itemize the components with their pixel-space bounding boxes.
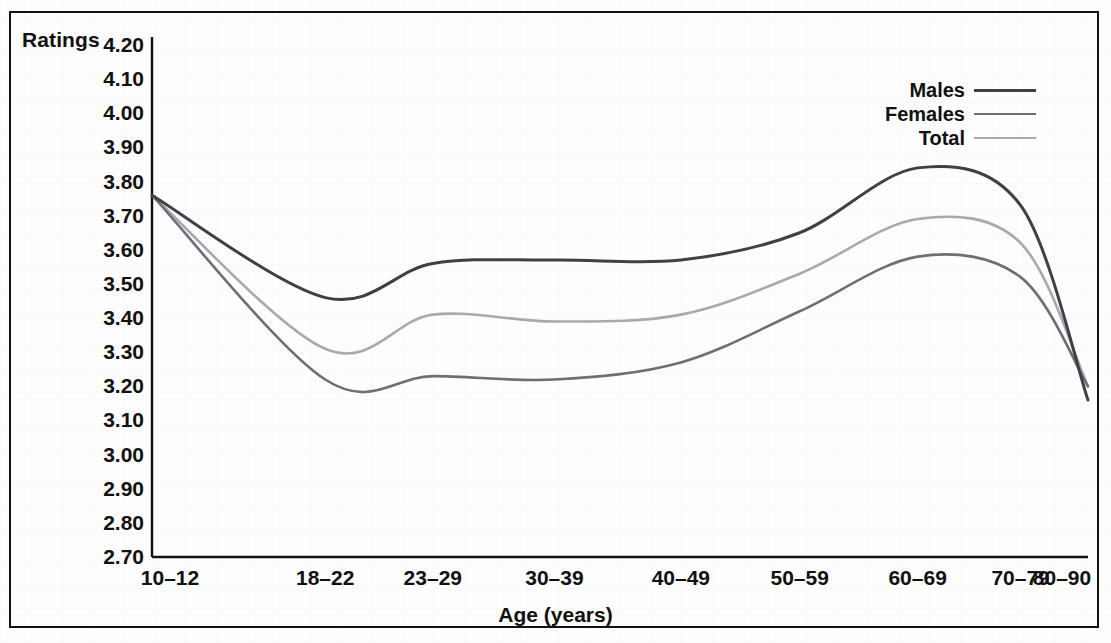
legend-item-total: Total	[826, 126, 1036, 150]
x-axis-tick-label: 18–22	[296, 566, 354, 590]
y-axis-tick-label: 3.20	[58, 375, 144, 396]
y-axis-tick-label: 3.70	[58, 205, 144, 226]
x-axis-tick-label: 23–29	[404, 566, 462, 590]
y-axis-tick-label: 2.70	[58, 546, 144, 567]
legend-line-swatch	[974, 113, 1036, 115]
y-axis-tick-label: 3.30	[58, 341, 144, 362]
y-axis-tick-label: 4.10	[58, 68, 144, 89]
legend-item-females: Females	[826, 102, 1036, 126]
y-axis-tick-label: 3.10	[58, 409, 144, 430]
figure-container: Ratings 4.204.104.003.903.803.703.603.50…	[0, 0, 1111, 643]
y-axis-tick-label: 3.50	[58, 273, 144, 294]
y-axis-tick-label: 4.20	[58, 34, 144, 55]
series-line-total	[152, 195, 1088, 386]
y-axis-tick-labels: 4.204.104.003.903.803.703.603.503.403.30…	[58, 0, 144, 643]
x-axis-tick-label: 80–90	[1033, 566, 1091, 590]
y-axis-tick-label: 3.90	[58, 136, 144, 157]
legend-label: Males	[909, 79, 965, 102]
y-axis-tick-label: 4.00	[58, 102, 144, 123]
legend-label: Total	[919, 127, 965, 150]
series-line-females	[152, 195, 1088, 392]
y-axis-tick-label: 3.60	[58, 239, 144, 260]
y-axis-tick-label: 3.80	[58, 171, 144, 192]
line-chart: Ratings 4.204.104.003.903.803.703.603.50…	[0, 0, 1111, 643]
legend-line-swatch	[974, 89, 1036, 92]
chart-legend: MalesFemalesTotal	[826, 78, 1036, 150]
x-axis-tick-label: 30–39	[525, 566, 583, 590]
legend-line-swatch	[974, 137, 1036, 139]
legend-label: Females	[885, 103, 965, 126]
x-axis-tick-label: 50–59	[771, 566, 829, 590]
y-axis-tick-label: 2.80	[58, 512, 144, 533]
y-axis-tick-label: 3.00	[58, 444, 144, 465]
series-lines	[152, 166, 1088, 400]
x-axis-title: Age (years)	[0, 603, 1111, 627]
series-line-males	[152, 166, 1088, 400]
legend-item-males: Males	[826, 78, 1036, 102]
x-axis-tick-label: 40–49	[652, 566, 710, 590]
x-axis-tick-label: 10–12	[141, 566, 199, 590]
y-axis-tick-label: 3.40	[58, 307, 144, 328]
x-axis-tick-label: 60–69	[888, 566, 946, 590]
y-axis-tick-label: 2.90	[58, 478, 144, 499]
